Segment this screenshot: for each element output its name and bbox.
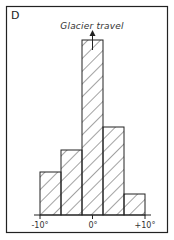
histogram-bar [103, 127, 124, 215]
x-tick-label-min: -10° [31, 221, 48, 230]
histogram-figure [0, 0, 174, 240]
x-tick-label-zero: 0° [88, 221, 97, 230]
histogram-bar [82, 40, 103, 215]
x-tick-label-max: +10° [135, 221, 156, 230]
histogram-bar [61, 150, 82, 215]
histogram-bars [40, 40, 145, 215]
chart-title: Glacier travel [0, 21, 174, 31]
histogram-bar [40, 172, 61, 215]
histogram-bar [124, 194, 145, 215]
